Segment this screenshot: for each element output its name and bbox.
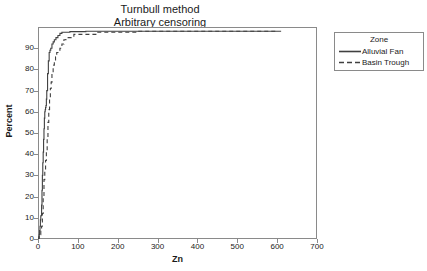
series-line-alluvial-fan [38,31,281,239]
dashed-line-icon [338,58,362,67]
y-tick-mark [34,154,38,155]
x-tick-label: 600 [262,243,292,251]
legend-entry-basin-trough: Basin Trough [338,57,423,68]
y-tick-label: 30 [14,171,34,179]
y-tick-mark [34,91,38,92]
y-tick-label: 20 [14,193,34,201]
x-tick-mark [317,239,318,243]
legend-entry-alluvial-fan: Alluvial Fan [338,46,423,57]
chart-title-block: Turnbull method Arbitrary censoring [0,3,320,29]
x-tick-mark [78,239,79,243]
y-tick-mark [34,69,38,70]
y-tick-label: 60 [14,108,34,116]
x-tick-label: 0 [23,243,53,251]
solid-line-icon [338,47,362,56]
legend: Zone Alluvial Fan Basin Trough [334,32,424,71]
turnbull-chart: Turnbull method Arbitrary censoring 0102… [0,0,427,271]
y-tick-label: 80 [14,65,34,73]
x-tick-label: 700 [302,243,332,251]
y-axis-tick-labels: 0102030405060708090 [12,0,34,271]
x-tick-label: 500 [222,243,252,251]
y-tick-mark [34,175,38,176]
x-tick-label: 400 [182,243,212,251]
series-line-basin-trough [38,31,277,239]
y-tick-mark [34,218,38,219]
y-tick-label: 50 [14,129,34,137]
x-tick-mark [197,239,198,243]
plot-series-canvas [38,27,317,239]
legend-label-alluvial-fan: Alluvial Fan [362,47,403,56]
y-tick-label: 90 [14,44,34,52]
y-tick-mark [34,133,38,134]
x-tick-mark [237,239,238,243]
y-tick-mark [34,197,38,198]
x-tick-label: 200 [103,243,133,251]
y-tick-label: 10 [14,214,34,222]
chart-title: Turnbull method [0,3,320,16]
y-tick-mark [34,112,38,113]
x-axis-title: Zn [38,254,317,264]
legend-title: Zone [335,35,423,44]
legend-label-basin-trough: Basin Trough [362,58,409,67]
y-tick-label: 0 [14,235,34,243]
x-tick-mark [118,239,119,243]
x-tick-mark [38,239,39,243]
x-tick-mark [158,239,159,243]
x-tick-mark [277,239,278,243]
x-tick-label: 100 [63,243,93,251]
y-tick-label: 70 [14,87,34,95]
y-axis-title: Percent [4,91,14,151]
y-tick-label: 40 [14,150,34,158]
x-tick-label: 300 [143,243,173,251]
y-tick-mark [34,48,38,49]
